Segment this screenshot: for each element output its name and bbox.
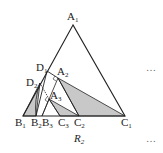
label-A3: A3 [50, 90, 61, 103]
label-B3: B3 [42, 117, 53, 130]
label-D1: D1 [36, 62, 47, 75]
ellipsis-top: … [146, 62, 157, 73]
label-C1: C1 [121, 117, 132, 130]
label-C3: C3 [58, 117, 69, 130]
label-B1: B1 [15, 117, 26, 130]
geometry-diagram: A1 D1 A2 D2 A3 B1 B2 B3 C3 C2 C1 R2 … … [0, 0, 163, 153]
label-A2: A2 [57, 66, 68, 79]
caption-R2: R2 [74, 133, 84, 146]
triangle-figure [0, 0, 163, 153]
ellipsis-bottom: … [146, 133, 157, 144]
label-A1: A1 [67, 11, 78, 24]
label-B2: B2 [31, 117, 42, 130]
label-D2: D2 [26, 77, 37, 90]
label-C2: C2 [74, 117, 85, 130]
